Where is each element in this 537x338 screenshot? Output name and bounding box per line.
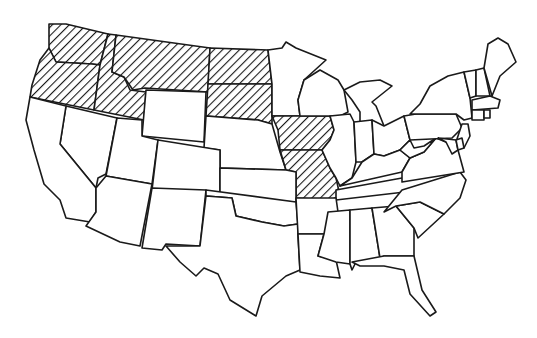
state-washington[interactable]: Washington	[49, 24, 108, 65]
state-wyoming[interactable]: Wyoming	[142, 90, 206, 142]
state-pennsylvania[interactable]: Pennsylvania	[404, 114, 462, 140]
state-maine[interactable]: Maine	[484, 38, 516, 96]
state-new-mexico[interactable]: New Mexico	[142, 188, 206, 250]
state-rhode-island[interactable]: Rhode Island	[484, 110, 490, 118]
states-layer: WashingtonOregonIdahoMontanaNorth Dakota…	[26, 24, 516, 316]
state-delaware[interactable]: Delaware	[456, 138, 464, 150]
state-iowa[interactable]: Iowa	[272, 116, 334, 150]
us-map-svg: WashingtonOregonIdahoMontanaNorth Dakota…	[0, 0, 537, 338]
state-new-york[interactable]: New York	[410, 72, 472, 120]
us-map: WashingtonOregonIdahoMontanaNorth Dakota…	[0, 0, 537, 338]
state-massachusetts[interactable]: Massachusetts	[472, 96, 500, 110]
state-connecticut[interactable]: Connecticut	[472, 110, 484, 120]
state-north-dakota[interactable]: North Dakota	[208, 48, 272, 84]
state-florida[interactable]: Florida	[352, 256, 436, 316]
